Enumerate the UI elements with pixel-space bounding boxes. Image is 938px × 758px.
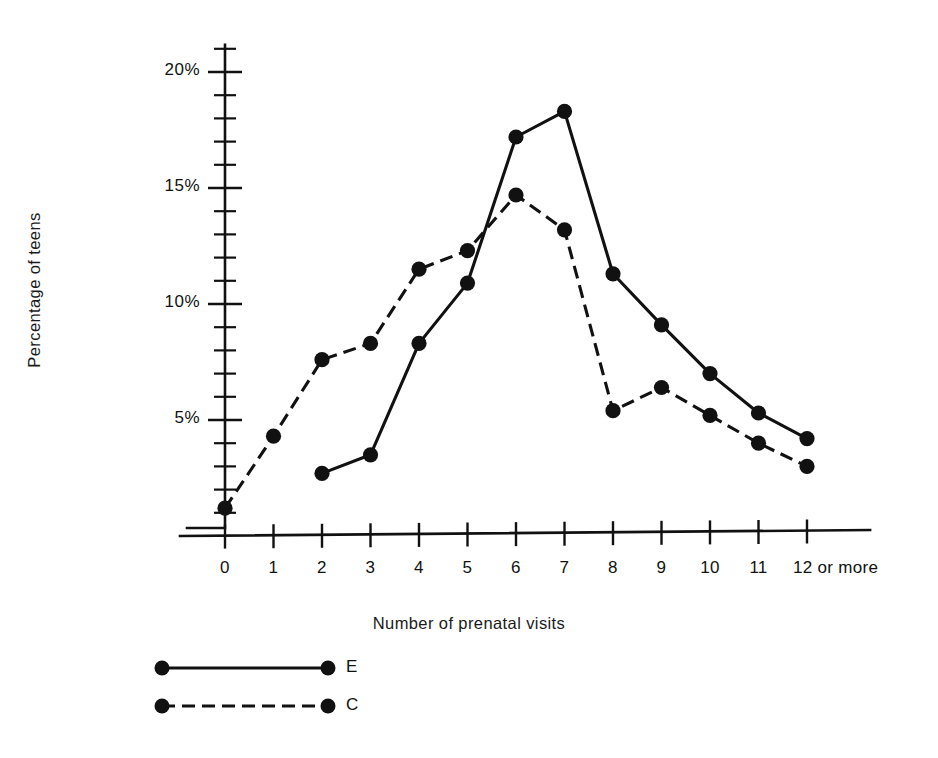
- data-point: [411, 336, 426, 351]
- data-point: [605, 266, 620, 281]
- series-line-e: [322, 111, 807, 473]
- data-point: [799, 459, 814, 474]
- data-point: [605, 403, 620, 418]
- legend-swatch-dashed: [150, 693, 340, 719]
- legend-entry-c: C: [150, 693, 410, 731]
- data-point: [314, 466, 329, 481]
- data-point: [702, 366, 717, 381]
- axis-ticks: [208, 49, 807, 549]
- series-line-c: [225, 195, 807, 508]
- y-tick-label: 10%: [80, 292, 200, 312]
- data-point: [654, 317, 669, 332]
- legend-swatch-solid: [150, 655, 340, 681]
- data-point: [751, 405, 766, 420]
- data-point: [799, 431, 814, 446]
- data-point: [557, 222, 572, 237]
- y-axis-line: [187, 45, 225, 528]
- data-point: [557, 104, 572, 119]
- legend-label-c: C: [346, 695, 358, 715]
- data-point: [266, 429, 281, 444]
- y-tick-label: 20%: [80, 60, 200, 80]
- legend-label-e: E: [346, 657, 357, 677]
- data-point: [654, 380, 669, 395]
- series-c: [217, 187, 814, 515]
- data-point: [508, 129, 523, 144]
- x-tick-label: 12 or more: [793, 558, 938, 578]
- data-point: [508, 187, 523, 202]
- data-point: [411, 262, 426, 277]
- data-point: [460, 276, 475, 291]
- series-e: [314, 104, 814, 481]
- data-point: [363, 336, 378, 351]
- y-tick-label: 5%: [80, 408, 200, 428]
- data-point: [314, 352, 329, 367]
- axes: [180, 45, 870, 536]
- y-tick-label: 15%: [80, 176, 200, 196]
- data-point: [217, 501, 232, 516]
- chart-legend: E C: [150, 655, 410, 731]
- chart-figure: Percentage of teens 5%10%15%20% 01234567…: [0, 0, 938, 758]
- x-axis-title: Number of prenatal visits: [0, 614, 938, 633]
- x-axis-line: [180, 530, 870, 536]
- legend-entry-e: E: [150, 655, 410, 693]
- data-series: [217, 104, 814, 516]
- x-tick-label: 11: [719, 558, 799, 578]
- data-point: [363, 447, 378, 462]
- data-point: [751, 436, 766, 451]
- data-point: [460, 243, 475, 258]
- data-point: [702, 408, 717, 423]
